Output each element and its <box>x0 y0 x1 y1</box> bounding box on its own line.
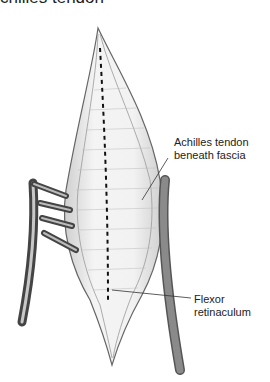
label-flexor-retinaculum: Flexor retinaculum <box>194 293 251 319</box>
incision-wound <box>64 28 162 365</box>
surgical-illustration <box>0 0 270 382</box>
right-retractor-blade <box>163 180 180 370</box>
label-achilles-tendon: Achilles tendon beneath fascia <box>174 136 249 162</box>
